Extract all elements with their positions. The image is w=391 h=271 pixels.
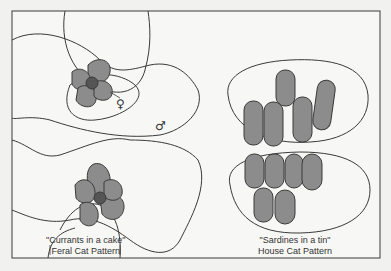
feral-caption-line2: Feral Cat Pattern bbox=[46, 246, 125, 257]
house-caption-line2: House Cat Pattern bbox=[258, 246, 332, 257]
male-symbol: ♂ bbox=[155, 119, 166, 133]
diagram-canvas: ♀ ♂ bbox=[0, 0, 391, 271]
cat-territory-diagram: ♀ ♂ bbox=[0, 0, 391, 271]
house-caption: "Sardines in a tin" House Cat Pattern bbox=[258, 235, 332, 257]
feral-caption-line1: "Currants in a cake" bbox=[46, 235, 125, 246]
feral-caption: "Currants in a cake" Feral Cat Pattern bbox=[46, 235, 125, 257]
house-caption-line1: "Sardines in a tin" bbox=[258, 235, 332, 246]
female-symbol: ♀ bbox=[116, 97, 125, 111]
